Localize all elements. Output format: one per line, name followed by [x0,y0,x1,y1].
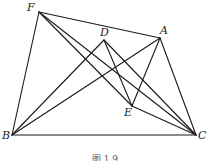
point-label-b: B [2,130,10,141]
segment-fb [12,12,39,135]
figure-caption: 图 1.9 [0,152,210,161]
geometry-figure [0,0,210,161]
segment-dc [104,40,196,135]
segment-fc [39,12,196,135]
point-label-f: F [27,2,35,13]
point-label-c: C [198,130,206,141]
point-label-d: D [100,27,109,38]
point-label-a: A [160,25,168,36]
segment-de [104,40,132,106]
segment-bd [12,40,104,135]
point-label-e: E [124,107,132,118]
segment-ba [12,38,160,135]
